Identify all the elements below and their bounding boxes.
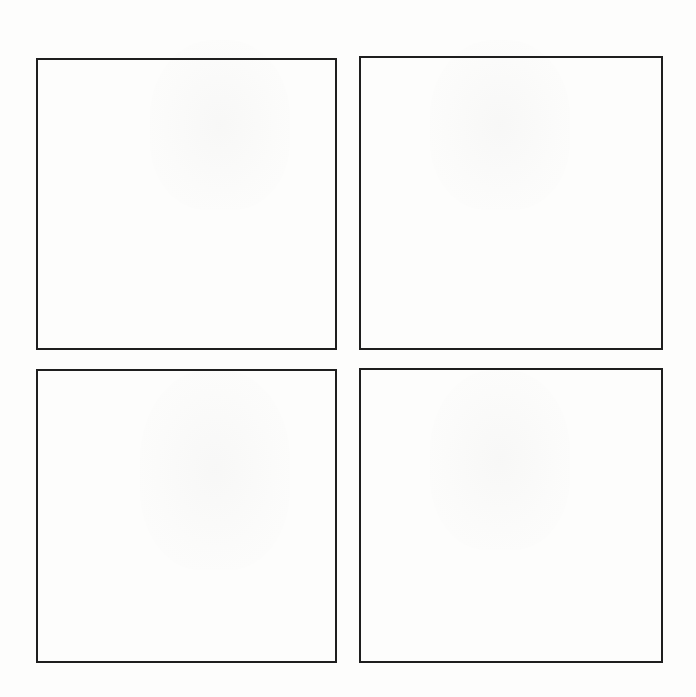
panel-top-right: [359, 56, 663, 350]
panel-top-left: [36, 58, 337, 350]
page-canvas: [0, 0, 696, 697]
panel-bottom-left: [36, 369, 337, 663]
panel-bottom-right: [359, 368, 663, 663]
